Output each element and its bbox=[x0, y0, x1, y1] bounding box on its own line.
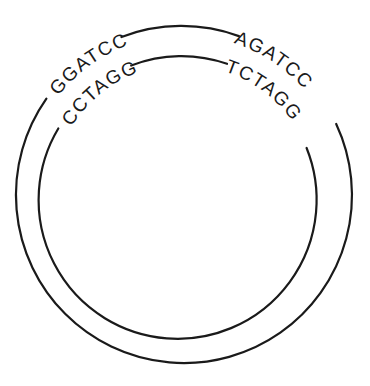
outer-strand-main-arc bbox=[16, 99, 352, 363]
inner-strand-top-arc bbox=[131, 56, 227, 65]
plasmid-diagram: GGATCC AGATCC CCTAGG TCTAGG bbox=[0, 0, 370, 386]
outer-strand-top-arc bbox=[122, 26, 239, 37]
inner-strand-main-arc bbox=[39, 129, 317, 339]
